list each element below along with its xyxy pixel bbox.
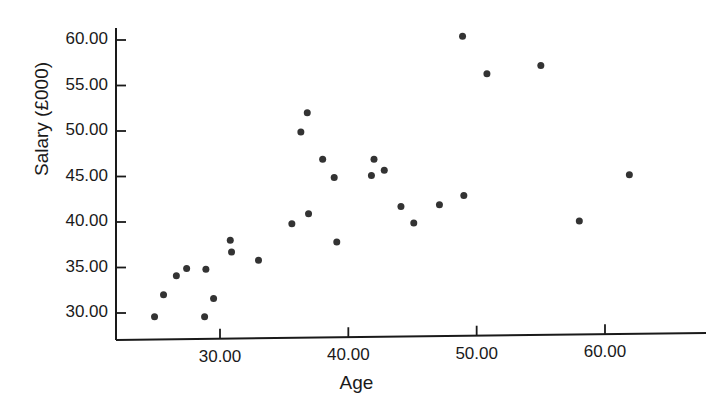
x-axis-title: Age: [0, 372, 713, 394]
x-tick-label: 50.00: [432, 344, 522, 364]
x-tick-label: 60.00: [560, 342, 650, 362]
y-axis-title: Salary (£000): [31, 19, 53, 219]
x-tick-label: 30.00: [175, 347, 265, 367]
x-tick-label: 40.00: [303, 345, 393, 365]
scatter-chart: 30.0035.0040.0045.0050.0055.0060.00 30.0…: [0, 0, 713, 418]
x-axis-tick-labels: 30.0040.0050.0060.00: [0, 0, 713, 418]
